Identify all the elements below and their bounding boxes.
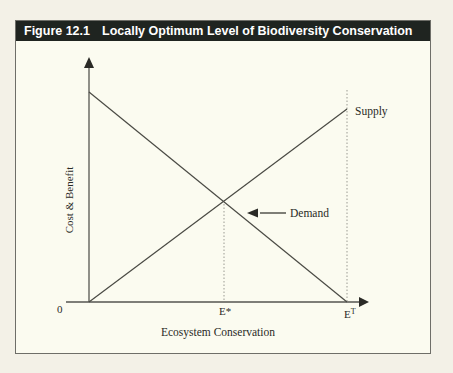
chart: Demand Supply 0 E* ET Ecosystem Conserva… (0, 0, 453, 373)
y-axis-label: Cost & Benefit (63, 167, 75, 234)
e-total-label: ET (344, 307, 356, 320)
demand-line (89, 92, 347, 302)
x-axis-label: Ecosystem Conservation (161, 326, 275, 339)
page: Figure 12.1 Locally Optimum Level of Bio… (0, 0, 453, 373)
demand-label: Demand (290, 207, 329, 219)
supply-label: Supply (355, 105, 388, 118)
e-total-superscript: T (351, 307, 356, 316)
supply-line (89, 109, 347, 302)
y-axis-arrow-icon (84, 57, 94, 68)
origin-label: 0 (57, 303, 63, 315)
x-axis-arrow-icon (359, 297, 369, 307)
demand-pointer-arrow-icon (247, 209, 258, 218)
e-star-label: E* (219, 305, 231, 317)
